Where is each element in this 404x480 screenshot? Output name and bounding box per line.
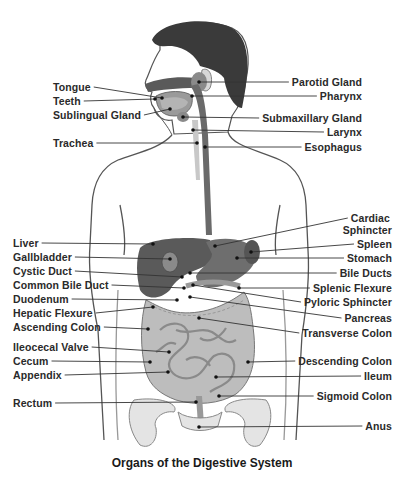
label-liver: Liver — [13, 237, 39, 249]
label-larynx: Larynx — [327, 126, 362, 138]
label-appendix: Appendix — [13, 369, 62, 381]
leader-line-spleen — [251, 244, 354, 252]
label-cystic-duct: Cystic Duct — [13, 265, 72, 277]
label-pancreas: Pancreas — [344, 312, 392, 324]
label-rectum: Rectum — [13, 397, 52, 409]
label-anus: Anus — [365, 420, 392, 432]
pointer-dot-bile-ducts — [188, 271, 192, 275]
pointer-dot-pancreas — [188, 295, 192, 299]
pointer-dot-common-bile-duct — [182, 286, 186, 290]
pointer-dot-appendix — [166, 370, 170, 374]
head — [145, 21, 248, 235]
abdominal-organs — [137, 238, 260, 425]
label-splenic-flexure: Splenic Flexure — [313, 282, 392, 294]
digestive-system-illustration — [0, 0, 404, 480]
label-trachea: Trachea — [53, 137, 93, 149]
pointer-dot-stomach — [235, 256, 239, 260]
pointer-dot-cardiac — [213, 244, 217, 248]
leader-line-descending-colon — [248, 361, 295, 362]
leader-line-cecum — [52, 361, 150, 362]
label-teeth: Teeth — [53, 95, 81, 107]
pointer-dot-ascending-colon — [146, 327, 150, 331]
label-pyloric-sphincter: Pyloric Sphincter — [304, 296, 392, 308]
pointer-dot-parotid-gland — [197, 80, 201, 84]
pointer-dot-cystic-duct — [180, 275, 184, 279]
pointer-dot-ileocecal-valve — [167, 350, 171, 354]
gallbladder — [162, 252, 178, 272]
label-descending-colon: Descending Colon — [298, 355, 392, 367]
pointer-dot-sigmoid-colon — [217, 394, 221, 398]
pointer-dot-hepatic-flexure — [151, 305, 155, 309]
leader-line-anus — [199, 426, 362, 427]
label-parotid-gland: Parotid Gland — [292, 76, 362, 88]
pointer-dot-liver — [151, 242, 155, 246]
label-ileocecal-valve: Ileocecal Valve — [13, 341, 89, 353]
diagram-title: Organs of the Digestive System — [0, 456, 404, 470]
pointer-dot-cecum — [148, 360, 152, 364]
label-duodenum: Duodenum — [13, 293, 69, 305]
pointer-dot-ileum — [214, 375, 218, 379]
leader-line-cardiac — [215, 218, 348, 246]
pointer-dot-trachea — [195, 141, 199, 145]
leader-line-duodenum — [72, 299, 177, 300]
pointer-dot-pyloric-sphincter — [191, 283, 195, 287]
pointer-dot-sublingual-gland — [168, 107, 172, 111]
label-ascending-colon: Ascending Colon — [13, 321, 101, 333]
label-esophagus: Esophagus — [305, 141, 363, 153]
pointer-dot-splenic-flexure — [237, 286, 241, 290]
pointer-dot-gallbladder — [168, 257, 172, 261]
pointer-dot-transverse-colon — [197, 316, 201, 320]
pointer-dot-spleen — [249, 250, 253, 254]
label-transverse-colon: Transverse Colon — [302, 327, 392, 339]
colon — [142, 292, 255, 403]
label-pharynx: Pharynx — [320, 90, 362, 102]
leader-line-teeth — [84, 99, 155, 101]
label-sphincter: Sphincter — [343, 224, 392, 236]
label-hepatic-flexure: Hepatic Flexure — [13, 307, 93, 319]
pointer-dot-pharynx — [190, 94, 194, 98]
leader-line-liver — [42, 243, 153, 244]
pointer-dot-tongue — [160, 96, 164, 100]
pointer-dot-teeth — [153, 97, 157, 101]
pointer-dot-anus — [197, 425, 201, 429]
label-stomach: Stomach — [347, 252, 392, 264]
pointer-dot-esophagus — [203, 145, 207, 149]
label-ileum: Ileum — [364, 370, 392, 382]
pointer-dot-rectum — [194, 400, 198, 404]
label-tongue: Tongue — [53, 81, 91, 93]
pointer-dot-descending-colon — [246, 360, 250, 364]
leader-line-rectum — [55, 402, 196, 403]
label-sigmoid-colon: Sigmoid Colon — [317, 390, 392, 402]
pointer-dot-duodenum — [175, 298, 179, 302]
label-cardiac: Cardiac — [351, 212, 390, 224]
label-submaxillary-gland: Submaxillary Gland — [262, 112, 362, 124]
pointer-dot-larynx — [191, 128, 195, 132]
label-spleen: Spleen — [357, 238, 392, 250]
label-bile-ducts: Bile Ducts — [340, 267, 392, 279]
label-gallbladder: Gallbladder — [13, 251, 72, 263]
label-common-bile-duct: Common Bile Duct — [13, 279, 109, 291]
pointer-dot-submaxillary-gland — [181, 115, 185, 119]
label-cecum: Cecum — [13, 355, 49, 367]
label-sublingual-gland: Sublingual Gland — [53, 109, 141, 121]
